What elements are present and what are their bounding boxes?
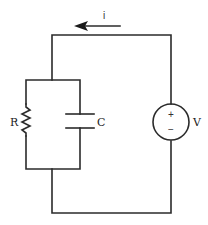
current-label: i (103, 10, 105, 21)
capacitor-icon (66, 114, 94, 128)
current-arrow (74, 21, 120, 31)
parallel-top-wire (26, 80, 80, 114)
parallel-bottom-wire (26, 128, 80, 169)
voltage-source-label: V (192, 116, 202, 129)
negative-terminal-label: − (168, 124, 174, 135)
capacitor-label: C (97, 116, 105, 129)
top-wire (52, 35, 171, 104)
bottom-wire (52, 141, 171, 213)
resistor-label: R (10, 116, 19, 129)
resistor-icon (22, 104, 30, 136)
positive-terminal-label: + (168, 109, 174, 120)
circuit-diagram: i R C + − V (0, 0, 208, 225)
